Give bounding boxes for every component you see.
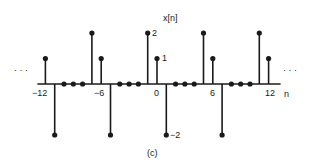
- stem-marker: [210, 56, 215, 61]
- stem-marker: [182, 81, 187, 86]
- figure-caption: (c): [147, 148, 158, 158]
- stem-marker: [52, 132, 57, 137]
- stem-marker: [173, 81, 178, 86]
- value-label-minus-2: −2: [170, 130, 180, 140]
- stem-marker: [201, 30, 206, 35]
- signal-label: x[n]: [163, 13, 178, 23]
- value-label-1: 1: [162, 53, 167, 63]
- axis-variable-label: n: [284, 89, 289, 99]
- stem-marker: [89, 30, 94, 35]
- stem-marker: [164, 132, 169, 137]
- stem-marker: [108, 132, 113, 137]
- tick-label-0: 0: [154, 88, 159, 98]
- stem-marker: [71, 81, 76, 86]
- tick-label-minus-12: −12: [32, 88, 47, 98]
- tick-label-12: 12: [265, 88, 275, 98]
- stem-marker: [257, 30, 262, 35]
- stem-marker: [145, 30, 150, 35]
- stem-marker: [80, 81, 85, 86]
- stem-marker: [61, 81, 66, 86]
- stem-marker: [192, 81, 197, 86]
- tick-label-6: 6: [210, 88, 215, 98]
- stem-marker: [99, 56, 104, 61]
- stem-marker: [247, 81, 252, 86]
- ellipsis-right: · · ·: [283, 65, 297, 75]
- stem-marker: [43, 56, 48, 61]
- stem-marker: [238, 81, 243, 86]
- stem-marker: [136, 81, 141, 86]
- stem-marker: [127, 81, 132, 86]
- ellipsis-left: · · ·: [14, 65, 28, 75]
- stem-plot: [0, 0, 314, 168]
- stem-marker: [117, 81, 122, 86]
- stem-marker: [266, 56, 271, 61]
- value-label-2: 2: [152, 28, 157, 38]
- stem-marker: [154, 56, 159, 61]
- stem-marker: [229, 81, 234, 86]
- stem-marker: [220, 132, 225, 137]
- tick-label-minus-6: −6: [94, 88, 104, 98]
